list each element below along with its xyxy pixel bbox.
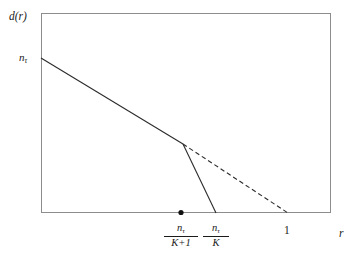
x-tick-n-tau-over-k-plus-1: nτ K+1 — [164, 222, 198, 249]
fraction-denominator: K+1 — [164, 237, 198, 248]
fraction-denominator: K — [203, 237, 229, 248]
y-axis-value-subscript: τ — [25, 56, 28, 65]
fraction-numerator: nτ — [203, 222, 229, 235]
y-axis-value-n-tau: nτ — [19, 52, 27, 64]
numerator-subscript: τ — [182, 227, 185, 235]
fraction-numerator: nτ — [164, 222, 198, 235]
numerator-subscript: τ — [217, 227, 220, 235]
x-tick-n-tau-over-k: nτ K — [203, 222, 229, 249]
plot-frame — [41, 13, 331, 213]
figure-canvas: d(r) nτ nτ K+1 nτ K 1 r — [0, 0, 357, 256]
x-tick-one: 1 — [284, 225, 290, 237]
x-axis-label: r — [339, 228, 343, 240]
y-axis-label: d(r) — [9, 11, 27, 23]
